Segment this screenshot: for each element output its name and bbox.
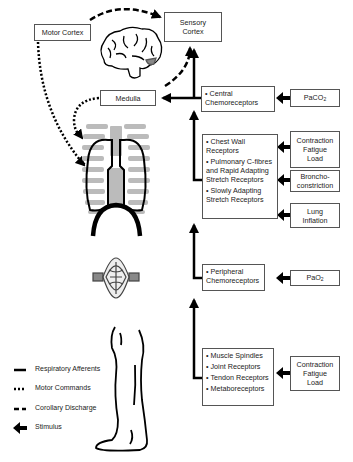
sensory-cortex-line1: Sensory [180,18,206,27]
paco2-stimulus-node: PaCO2 [290,89,340,107]
pao2-label: PaO2 [306,273,323,284]
joint-receptors-item: • Joint Receptors [206,362,270,371]
lung-inflation-stimulus-node: Lung Inflation [290,203,340,228]
legend-motor-commands: Motor Commands [35,384,91,391]
bronchoconstriction-stimulus-node: Broncho- constriction [290,170,340,192]
legend-swatches [13,370,27,434]
pao2-base: PaO [306,273,320,282]
legend-label: Respiratory Afferents [35,365,100,372]
peripheral-chemoreceptors-node: • Peripheral Chemoreceptors [202,264,265,291]
afferent-line-pulmonary [194,112,202,180]
paco2-label: PaCO2 [304,93,326,104]
tendon-receptors-item: • Tendon Receptors [206,373,270,382]
load-label-2: Load [307,378,323,387]
leg-icon [96,327,147,451]
peripheral-chemo-line2: Chemoreceptors [206,276,261,285]
contraction-label: Contraction [297,136,334,145]
legend-stimulus: Stimulus [35,423,62,430]
brain-icon [101,27,162,78]
broncho-line1: Broncho- [300,172,329,181]
fatigue-label: Fatigue [303,145,327,154]
central-chemoreceptors-node: • Central Chemoreceptors [201,86,275,112]
slowly-adapting-item: • Slowly Adapting Stretch Receptors [206,186,274,204]
lung-inflation-line1: Lung [307,207,323,216]
pao2-stimulus-node: PaO2 [290,270,340,286]
central-chemo-line1: • Central [205,89,271,98]
contraction-label-2: Contraction [297,360,334,369]
afferent-line-peripheral [194,225,202,278]
muscle-spindles-item: • Muscle Spindles [206,351,270,360]
motor-command-line-cortex [38,42,85,165]
medulla-label: Medulla [115,94,140,103]
legend-respiratory-afferents: Respiratory Afferents [35,365,100,372]
medulla-node: Medulla [100,90,156,106]
peripheral-chemo-line1: • Peripheral [206,267,261,276]
diaphragm-icon [93,258,139,298]
afferent-line-muscle [194,300,202,378]
broncho-line2: constriction [297,181,333,190]
metaboreceptors-item: • Metaboreceptors [206,384,270,393]
corollary-discharge-line-top [90,9,160,20]
ribcage-lungs-icon [82,124,150,236]
sensory-cortex-node: Sensory Cortex [164,12,222,42]
paco2-sub: 2 [323,96,326,102]
corollary-discharge-line-medulla [165,48,190,86]
legend-label: Motor Commands [35,384,91,391]
pulmonary-c-fibres-item: • Pulmonary C-fibres and Rapid Adapting … [206,157,274,184]
paco2-base: PaCO [304,93,324,102]
stimulus-arrows [276,92,290,379]
legend-corollary-discharge: Corollary Discharge [35,404,96,411]
load-label: Load [307,154,323,163]
motor-command-line-medulla [74,98,99,136]
contraction-stimulus-node-2: Contraction Fatigue Load [290,356,340,391]
motor-cortex-label: Motor Cortex [42,28,84,37]
pulmonary-receptors-node: • Chest Wall Receptors • Pulmonary C-fib… [202,134,278,219]
fatigue-label-2: Fatigue [303,369,327,378]
legend-label: Corollary Discharge [35,404,96,411]
muscle-receptors-node: • Muscle Spindles • Joint Receptors • Te… [202,348,274,406]
lung-inflation-line2: Inflation [302,216,327,225]
connector-lines [0,0,353,462]
chest-wall-receptors-item: • Chest Wall Receptors [206,137,274,155]
central-chemo-line2: Chemoreceptors [205,98,271,107]
pao2-sub: 2 [321,276,324,282]
motor-cortex-node: Motor Cortex [34,24,91,41]
sensory-cortex-line2: Cortex [182,27,203,36]
legend-label: Stimulus [35,423,62,430]
contraction-stimulus-node-1: Contraction Fatigue Load [290,131,340,168]
